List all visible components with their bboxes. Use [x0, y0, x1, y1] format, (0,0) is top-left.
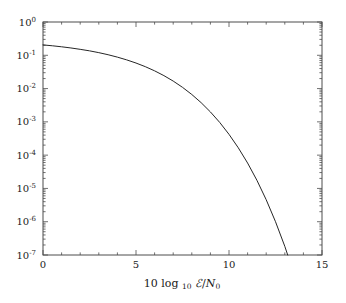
plot-area-background: [43, 22, 322, 255]
chart-figure: 10010-110-210-310-410-510-610-7 051015 1…: [0, 0, 346, 303]
x-axis-title-log-subscript: 10: [182, 282, 192, 291]
x-axis-title-noise-subscript: 0: [215, 282, 220, 291]
x-axis-title-noise-symbol: N: [205, 277, 216, 290]
x-tick-label: 10: [223, 259, 236, 270]
semilog-plot: 10010-110-210-310-410-510-610-7 051015 1…: [0, 0, 346, 303]
x-axis-title-main: 10 log: [144, 277, 182, 290]
x-tick-label: 15: [316, 259, 329, 270]
x-tick-label: 0: [40, 259, 46, 270]
x-tick-label: 5: [133, 259, 139, 270]
